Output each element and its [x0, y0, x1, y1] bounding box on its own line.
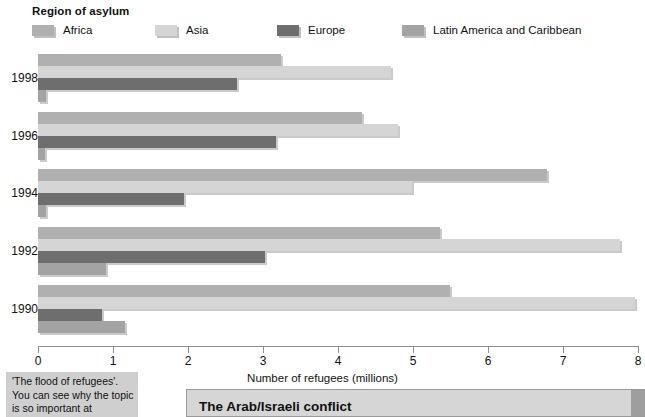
x-axis-tick — [563, 346, 564, 353]
bar-group-1990: 1990 — [0, 285, 645, 333]
bar-europe-1990 — [38, 309, 102, 321]
legend-swatch-europe — [277, 25, 299, 36]
bar-asia-1998 — [38, 66, 391, 78]
arab-israeli-conflict-panel: The Arab/Israeli conflict — [186, 389, 645, 417]
legend-swatch-africa — [32, 25, 54, 36]
x-axis-tick — [113, 346, 114, 353]
legend-item-list: Africa Asia Europe Latin America and Car… — [32, 24, 581, 36]
bar-group-1996: 1996 — [0, 112, 645, 160]
legend-swatch-asia — [155, 25, 177, 36]
bar-africa-1998 — [38, 54, 281, 66]
bar-europe-1998 — [38, 78, 237, 90]
x-axis-tick — [638, 346, 639, 353]
bar-asia-1992 — [38, 239, 620, 251]
bar-europe-1992 — [38, 251, 265, 263]
bar-latin-america-and-caribbean-1998 — [38, 90, 46, 102]
caption-text: 'The flood of refugees'. You can see why… — [12, 375, 136, 416]
bar-chart-plot-area: 19981996199419921990 — [0, 48, 645, 348]
bar-europe-1996 — [38, 136, 276, 148]
panel-title: The Arab/Israeli conflict — [199, 399, 352, 414]
x-axis-tick — [338, 346, 339, 353]
bar-latin-america-and-caribbean-1990 — [38, 321, 125, 333]
legend-label-europe: Europe — [308, 24, 345, 36]
year-label-1990: 1990 — [6, 302, 38, 316]
x-axis-tick — [38, 346, 39, 353]
x-axis-tick-label: 5 — [401, 354, 425, 368]
x-axis-tick-label: 1 — [101, 354, 125, 368]
year-label-1998: 1998 — [6, 71, 38, 85]
caption-callout: 'The flood of refugees'. You can see why… — [6, 372, 138, 417]
year-label-1992: 1992 — [6, 244, 38, 258]
bar-asia-1994 — [38, 181, 412, 193]
legend-item-asia: Asia — [155, 24, 277, 36]
x-axis-tick-label: 6 — [476, 354, 500, 368]
x-axis-tick-label: 4 — [326, 354, 350, 368]
x-axis-tick — [263, 346, 264, 353]
x-axis-tick-label: 0 — [26, 354, 50, 368]
legend-label-africa: Africa — [63, 24, 92, 36]
x-axis-tick — [413, 346, 414, 353]
legend-label-latin-america: Latin America and Caribbean — [433, 24, 581, 36]
bar-group-1994: 1994 — [0, 169, 645, 217]
x-axis-tick-label: 8 — [626, 354, 645, 368]
legend-item-latin-america: Latin America and Caribbean — [402, 24, 581, 36]
bar-africa-1992 — [38, 227, 440, 239]
panel-edge-marker — [631, 390, 644, 416]
bar-latin-america-and-caribbean-1996 — [38, 148, 45, 160]
legend-item-africa: Africa — [32, 24, 155, 36]
x-axis-tick — [188, 346, 189, 353]
legend-item-europe: Europe — [277, 24, 402, 36]
bar-group-1998: 1998 — [0, 54, 645, 102]
bar-europe-1994 — [38, 193, 184, 205]
bar-africa-1994 — [38, 169, 547, 181]
x-axis-tick — [488, 346, 489, 353]
bar-latin-america-and-caribbean-1994 — [38, 205, 46, 217]
x-axis-tick-label: 7 — [551, 354, 575, 368]
year-label-1994: 1994 — [6, 186, 38, 200]
x-axis-tick-label: 3 — [251, 354, 275, 368]
bar-africa-1996 — [38, 112, 362, 124]
bar-group-1992: 1992 — [0, 227, 645, 275]
bar-asia-1990 — [38, 297, 635, 309]
x-axis-tick-label: 2 — [176, 354, 200, 368]
year-label-1996: 1996 — [6, 129, 38, 143]
bar-africa-1990 — [38, 285, 450, 297]
legend-swatch-latin-america — [402, 25, 424, 36]
legend-label-asia: Asia — [186, 24, 208, 36]
bar-asia-1996 — [38, 124, 398, 136]
bar-latin-america-and-caribbean-1992 — [38, 263, 106, 275]
legend-title: Region of asylum — [32, 5, 129, 17]
